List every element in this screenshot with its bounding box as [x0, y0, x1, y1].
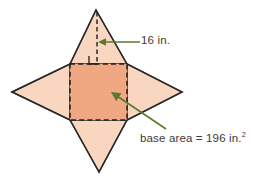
base-area-label-text: base area = 196 in. [140, 132, 242, 144]
geometry-figure: 16 in. base area = 196 in.2 [0, 0, 261, 178]
bottom-triangle-face [70, 120, 127, 172]
right-triangle-face [127, 64, 182, 120]
height-annotation-arrow [98, 38, 140, 46]
base-area-exponent: 2 [242, 130, 246, 139]
pyramid-net-diagram [0, 0, 261, 178]
base-square-fill [70, 64, 127, 120]
left-triangle-face [12, 64, 70, 120]
height-label: 16 in. [141, 35, 170, 47]
base-area-label: base area = 196 in.2 [140, 133, 246, 145]
top-triangle-face [70, 10, 127, 64]
